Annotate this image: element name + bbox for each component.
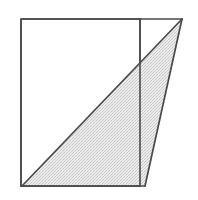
geometry-figure [0,0,198,200]
